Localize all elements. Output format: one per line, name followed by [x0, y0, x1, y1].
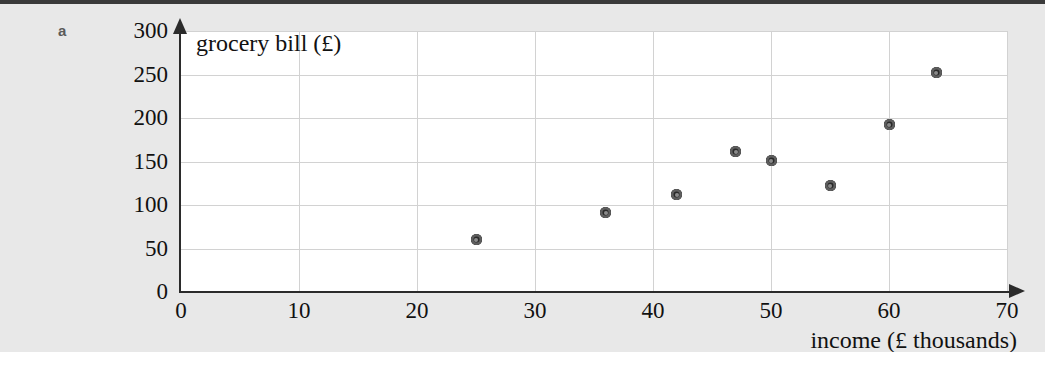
y-axis-tick-label: 150 — [108, 150, 168, 173]
data-point — [825, 180, 836, 191]
gridline-vertical — [299, 31, 300, 292]
x-tick-text: 70 — [977, 298, 1037, 324]
gridline-vertical — [653, 31, 654, 292]
gridline-vertical — [535, 31, 536, 292]
x-tick-text: 30 — [505, 298, 565, 324]
data-point — [766, 155, 777, 166]
x-axis-tick-label: 70 — [977, 298, 1037, 324]
y-axis-line — [179, 31, 181, 293]
data-point — [884, 119, 895, 130]
x-axis-tick-label: 30 — [505, 298, 565, 324]
y-axis-tick-label: 200 — [108, 106, 168, 129]
x-tick-text: 20 — [387, 298, 447, 324]
gridline-vertical — [417, 31, 418, 292]
y-axis-tick-label: 50 — [108, 237, 168, 260]
gridline-vertical — [1007, 31, 1008, 292]
y-tick-text: 250 — [108, 63, 168, 86]
y-tick-text: 50 — [108, 237, 168, 260]
gridline-horizontal — [181, 205, 1007, 206]
y-tick-text: 200 — [108, 106, 168, 129]
y-axis-tick-label: 100 — [108, 193, 168, 216]
y-axis-title: grocery bill (£) — [196, 30, 341, 57]
gridline-horizontal — [181, 118, 1007, 119]
y-tick-text: 150 — [108, 150, 168, 173]
x-tick-text: 40 — [623, 298, 683, 324]
x-axis-line — [181, 291, 1013, 293]
x-tick-text: 50 — [741, 298, 801, 324]
y-axis-tick-label: 250 — [108, 63, 168, 86]
y-tick-text: 100 — [108, 193, 168, 216]
scatter-plot-figure: 050100150200250300 010203040506070 groce… — [0, 0, 1045, 374]
y-axis-arrow-icon — [173, 18, 187, 34]
gridline-horizontal — [181, 75, 1007, 76]
x-axis-tick-label: 10 — [269, 298, 329, 324]
bottom-white-strip — [0, 352, 1045, 374]
gridline-horizontal — [181, 162, 1007, 163]
x-tick-text: 60 — [859, 298, 919, 324]
gridline-vertical — [889, 31, 890, 292]
y-axis-tick-label: 300 — [108, 19, 168, 42]
x-axis-tick-label: 50 — [741, 298, 801, 324]
x-axis-tick-label: 20 — [387, 298, 447, 324]
x-axis-title: income (£ thousands) — [810, 327, 1017, 354]
x-tick-text: 0 — [151, 298, 211, 324]
gridline-horizontal — [181, 249, 1007, 250]
x-axis-tick-label: 40 — [623, 298, 683, 324]
x-axis-tick-label: 0 — [151, 298, 211, 324]
page-container: a 050100150200250300 010203040506070 gro… — [0, 0, 1045, 374]
y-tick-text: 300 — [108, 19, 168, 42]
x-axis-arrow-icon — [1009, 284, 1025, 298]
data-point — [471, 234, 482, 245]
x-axis-tick-label: 60 — [859, 298, 919, 324]
data-point — [931, 67, 942, 78]
x-tick-text: 10 — [269, 298, 329, 324]
